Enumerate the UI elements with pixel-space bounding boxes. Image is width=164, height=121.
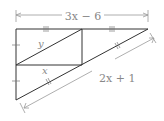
midsegment-label-x: x: [42, 65, 48, 76]
hypotenuse-dimension-label: 2x + 1: [99, 72, 135, 85]
diagonal-label-y: y: [37, 38, 44, 49]
triangle-figure: [16, 29, 148, 100]
top-dimension-label: 3x − 6: [65, 10, 101, 23]
geometry-diagram: 3x − 6 2x + 1 y x: [0, 0, 164, 121]
